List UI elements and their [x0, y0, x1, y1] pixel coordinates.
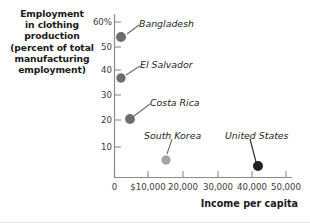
data-point-bangladesh[interactable]: [116, 32, 126, 42]
point-label-united-states: United States: [225, 130, 288, 141]
point-label-south-korea: South Korea: [144, 130, 201, 141]
leader-line-el-salvador: [126, 66, 140, 75]
chart-figure: Employment in clothing production (perce…: [0, 0, 310, 223]
leader-lines: [126, 25, 256, 162]
y-tick-label-20: 20: [88, 115, 112, 125]
x-tick-marks: [115, 171, 287, 178]
y-tick-label-60: 60%: [88, 17, 112, 27]
x-tick-label-0: 0: [104, 182, 125, 192]
y-tick-label-40: 40: [88, 65, 112, 75]
point-label-bangladesh: Bangladesh: [139, 18, 194, 29]
y-tick-label-30: 30: [88, 90, 112, 100]
data-point-costa-rica[interactable]: [125, 114, 135, 124]
point-label-costa-rica: Costa Rica: [150, 97, 200, 108]
leader-line-bangladesh: [127, 25, 139, 34]
data-point-el-salvador[interactable]: [116, 73, 125, 82]
leader-line-south-korea: [167, 139, 172, 154]
leader-line-united-states: [250, 139, 256, 162]
data-point-south-korea[interactable]: [161, 155, 170, 164]
x-axis-title: Income per capita: [168, 198, 298, 209]
point-label-el-salvador: El Salvador: [140, 59, 193, 70]
data-point-united-states[interactable]: [253, 161, 263, 171]
y-tick-label-10: 10: [88, 142, 112, 152]
y-tick-label-50: 50: [88, 42, 112, 52]
x-tick-label-50k: 50,000: [263, 182, 309, 192]
leader-line-costa-rica: [134, 104, 150, 116]
